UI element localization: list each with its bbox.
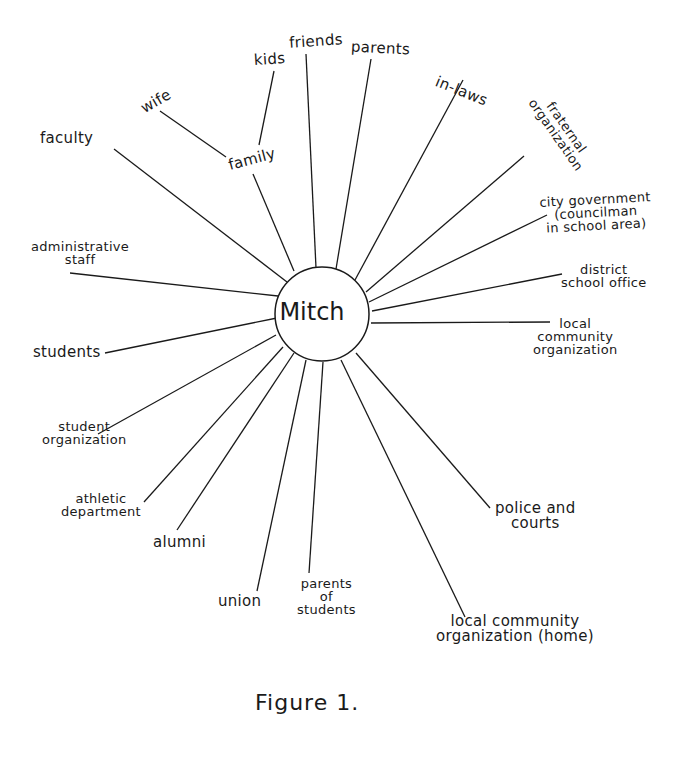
- edge-mitch-administrative-staff: [70, 273, 278, 296]
- edge-mitch-parents: [336, 59, 371, 269]
- node-friends: friends: [289, 32, 344, 51]
- edge-family-kids: [259, 71, 274, 145]
- edge-mitch-local-community-organization-home: [341, 360, 465, 617]
- edge-mitch-city-government: [369, 215, 547, 302]
- node-administrative-staff: administrative staff: [31, 240, 129, 266]
- edge-mitch-alumni: [177, 353, 294, 530]
- node-union: union: [218, 594, 261, 609]
- node-police-and-courts: police and courts: [495, 501, 576, 531]
- node-parents: parents: [351, 39, 411, 57]
- edge-mitch-faculty: [114, 149, 287, 282]
- node-local-community-organization-home: local community organization (home): [436, 614, 594, 644]
- node-alumni: alumni: [153, 535, 206, 550]
- node-local-community-organization: local community organization: [533, 317, 617, 356]
- edge-mitch-parents-of-students: [309, 362, 323, 573]
- figure-caption: Figure 1.: [255, 690, 359, 715]
- node-kids: kids: [254, 51, 286, 68]
- edge-mitch-friends: [306, 54, 316, 268]
- edge-family-wife: [160, 111, 226, 157]
- node-parents-of-students: parents of students: [297, 577, 356, 616]
- node-student-organization: student organization: [42, 420, 126, 446]
- node-faculty: faculty: [40, 131, 93, 146]
- edge-mitch-union: [257, 360, 306, 591]
- node-city-government: city government (councilman in school ar…: [539, 190, 652, 235]
- edge-mitch-in-laws: [355, 80, 463, 280]
- edge-mitch-local-community-organization: [371, 322, 550, 323]
- edge-mitch-students: [105, 318, 277, 353]
- node-athletic-department: athletic department: [61, 492, 141, 518]
- edge-mitch-district-school-office: [372, 274, 562, 311]
- edge-mitch-police-and-courts: [356, 353, 490, 508]
- node-district-school-office: district school office: [561, 263, 647, 289]
- edge-mitch-family: [253, 174, 294, 271]
- center-node-label: Mitch: [267, 298, 357, 326]
- edge-mitch-fraternal-organization: [366, 156, 524, 292]
- node-students: students: [33, 345, 101, 360]
